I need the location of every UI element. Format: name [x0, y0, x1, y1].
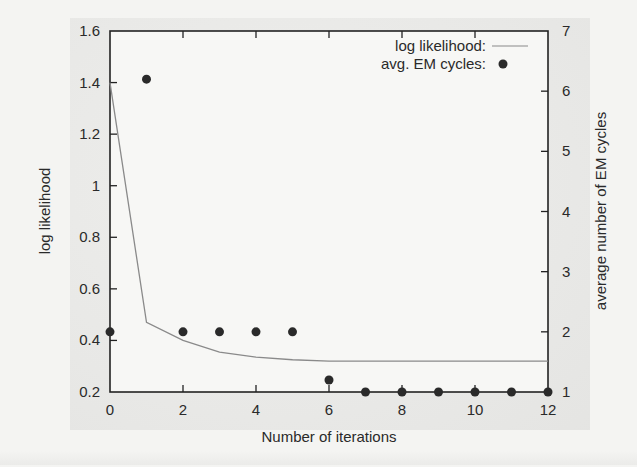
y2-tick-label: 3	[562, 263, 570, 280]
y2-tick-label: 4	[562, 203, 570, 220]
legend-dot-swatch	[499, 60, 508, 69]
y-tick-label: 0.2	[79, 383, 100, 400]
y-axis-title: log likelihood	[36, 168, 53, 255]
y2-tick-label: 2	[562, 323, 570, 340]
em-cycles-point	[179, 327, 188, 336]
y-tick-label: 1.6	[79, 22, 100, 39]
em-cycles-point	[398, 388, 407, 397]
em-cycles-point	[325, 375, 334, 384]
x-tick-label: 10	[467, 401, 484, 418]
y2-tick-label: 6	[562, 82, 570, 99]
em-cycles-point	[544, 388, 553, 397]
chart: 0246810120.20.40.60.811.21.41.61234567 l…	[0, 0, 637, 467]
y-tick-label: 0.6	[79, 280, 100, 297]
em-cycles-point	[471, 388, 480, 397]
em-cycles-point	[434, 388, 443, 397]
y2-tick-label: 5	[562, 142, 570, 159]
x-tick-label: 6	[325, 401, 333, 418]
x-tick-label: 2	[179, 401, 187, 418]
em-cycles-point	[106, 327, 115, 336]
x-tick-label: 0	[106, 401, 114, 418]
x-axis-title: Number of iterations	[261, 428, 396, 445]
y-tick-label: 1.2	[79, 125, 100, 142]
em-cycles-point	[507, 388, 516, 397]
plot-background	[110, 31, 548, 392]
y-tick-label: 0.8	[79, 228, 100, 245]
em-cycles-point	[361, 388, 370, 397]
y-tick-label: 1	[92, 177, 100, 194]
legend-label-em-cycles: avg. EM cycles:	[381, 55, 486, 72]
em-cycles-point	[215, 327, 224, 336]
plot-area	[110, 31, 548, 392]
y2-axis-title: average number of EM cycles	[592, 112, 609, 310]
y-tick-label: 0.4	[79, 331, 100, 348]
y2-tick-label: 1	[562, 383, 570, 400]
scan-edge	[0, 451, 637, 465]
em-cycles-point	[288, 327, 297, 336]
x-tick-label: 12	[540, 401, 557, 418]
x-tick-label: 4	[252, 401, 260, 418]
x-tick-label: 8	[398, 401, 406, 418]
legend-label-log-likelihood: log likelihood:	[395, 37, 486, 54]
em-cycles-point	[142, 75, 151, 84]
em-cycles-point	[252, 327, 261, 336]
y-tick-label: 1.4	[79, 74, 100, 91]
y2-tick-label: 7	[562, 22, 570, 39]
